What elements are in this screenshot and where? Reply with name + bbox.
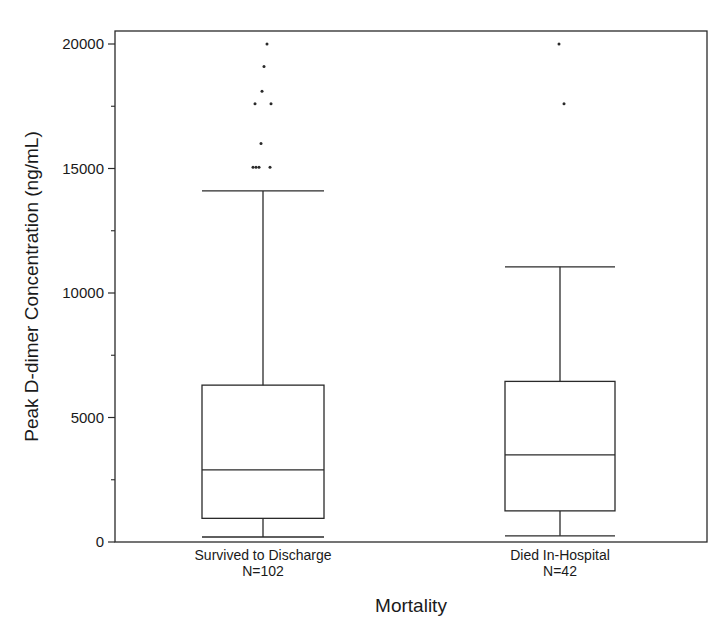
- category-label: Survived to Discharge: [195, 547, 332, 563]
- boxes: [202, 43, 615, 538]
- x-axis-labels: Survived to DischargeN=102Died In-Hospit…: [195, 547, 610, 579]
- box-plot-chart: 05000100001500020000 Survived to Dischar…: [0, 0, 727, 635]
- outlier-point: [266, 43, 269, 46]
- outlier-point: [261, 90, 264, 93]
- outlier-point: [558, 43, 561, 46]
- y-axis: 05000100001500020000: [62, 35, 115, 550]
- outlier-point: [258, 166, 261, 169]
- outlier-point: [270, 102, 273, 105]
- y-tick-label: 5000: [71, 409, 104, 426]
- outlier-point: [252, 166, 255, 169]
- category-label: Died In-Hospital: [510, 547, 610, 563]
- category-n-label: N=102: [242, 563, 284, 579]
- outlier-point: [260, 142, 263, 145]
- y-tick-label: 15000: [62, 160, 104, 177]
- plot-frame: [115, 31, 707, 542]
- iqr-box: [505, 381, 615, 510]
- category-n-label: N=42: [543, 563, 577, 579]
- x-axis-title: Mortality: [375, 595, 447, 616]
- y-tick-label: 20000: [62, 35, 104, 52]
- outlier-point: [563, 102, 566, 105]
- outlier-point: [254, 102, 257, 105]
- outlier-point: [269, 166, 272, 169]
- iqr-box: [202, 385, 324, 518]
- box-survived: [202, 43, 324, 538]
- outlier-point: [255, 166, 258, 169]
- y-tick-label: 0: [96, 533, 104, 550]
- y-axis-title: Peak D-dimer Concentration (ng/mL): [21, 131, 42, 441]
- y-tick-label: 10000: [62, 284, 104, 301]
- outlier-point: [263, 65, 266, 68]
- box-died: [505, 43, 615, 536]
